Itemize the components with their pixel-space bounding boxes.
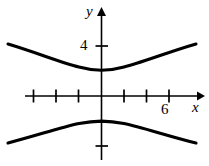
x-tick-label-6: 6 bbox=[161, 102, 169, 117]
x-axis-label: x bbox=[192, 100, 199, 115]
y-axis-label: y bbox=[86, 4, 93, 19]
hyperbola-graph-figure: y x 4 6 bbox=[0, 0, 209, 166]
y-tick-label-4: 4 bbox=[80, 38, 88, 53]
plot-canvas bbox=[0, 0, 209, 166]
y-axis-arrowhead bbox=[97, 7, 106, 16]
